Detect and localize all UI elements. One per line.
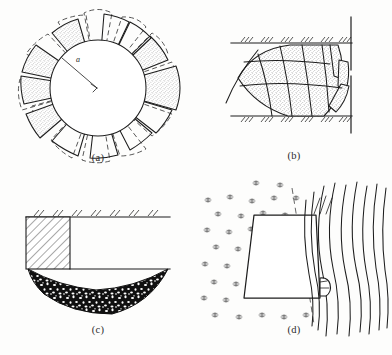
- upper-boundary: [231, 37, 352, 43]
- shoulder-stubs: [314, 196, 332, 214]
- lower-boundary: [231, 116, 352, 122]
- surface-hatching: [34, 210, 158, 216]
- panel-a-caption: (a): [0, 152, 196, 163]
- corner-hook-detail: [320, 278, 331, 296]
- tunnel-opening-circle: [50, 40, 146, 136]
- mottled-collapse-zone: [28, 269, 168, 314]
- panel-c: (c): [0, 178, 196, 355]
- radius-label: a: [76, 55, 80, 64]
- panel-a: a (a): [0, 0, 196, 177]
- hatched-block: [26, 217, 70, 269]
- panel-b: (b): [196, 0, 392, 177]
- panel-c-caption: (c): [0, 324, 196, 335]
- panel-d: (d): [196, 178, 392, 355]
- panel-a-drawing: a: [0, 0, 196, 177]
- panel-d-caption: (d): [196, 324, 392, 335]
- panel-b-caption: (b): [196, 150, 392, 161]
- trapezoid-block: [244, 215, 320, 298]
- figure-root: a (a): [0, 0, 392, 355]
